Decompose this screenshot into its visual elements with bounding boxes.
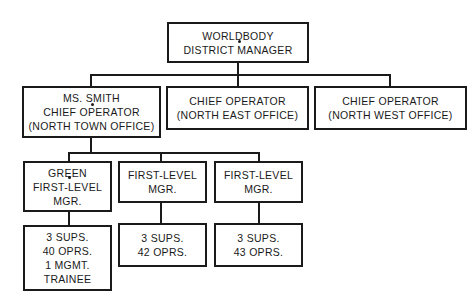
box-line: 42 OPRS.: [138, 245, 188, 259]
box-line: FIRST-LEVEL: [128, 168, 197, 182]
connector-staff-middle: [160, 202, 162, 223]
box-line: CHIEF OPERATOR: [189, 94, 286, 108]
first-level-mgr-green-box: GREEN FIRST-LEVEL MGR.: [23, 161, 112, 212]
box-line: 3 SUPS.: [46, 230, 88, 244]
box-line: 40 OPRS.: [43, 244, 93, 258]
box-line: FIRST-LEVEL: [33, 180, 102, 194]
bullet-dot: [91, 103, 94, 106]
box-line: (NORTH TOWN OFFICE): [29, 119, 155, 133]
connector-staff-right: [258, 202, 260, 223]
box-line: CHIEF OPERATOR: [342, 94, 439, 108]
connector-staff-left: [68, 211, 70, 225]
connector-chief-bar: [90, 74, 391, 76]
box-line: 3 SUPS.: [237, 231, 279, 245]
first-level-mgr-middle-box: FIRST-LEVEL MGR.: [118, 161, 207, 203]
bullet-dot: [68, 176, 71, 179]
bullet-dot: [238, 40, 241, 43]
chief-operator-north-west-box: CHIEF OPERATOR (NORTH WEST OFFICE): [314, 86, 467, 130]
box-line: TRAINEE: [44, 272, 92, 286]
box-line: DISTRICT MANAGER: [183, 43, 292, 57]
box-line: 3 SUPS.: [141, 231, 183, 245]
box-line: CHIEF OPERATOR: [43, 105, 140, 119]
box-line: MGR.: [244, 182, 273, 196]
box-line: (NORTH EAST OFFICE): [177, 108, 298, 122]
first-level-mgr-right-box: FIRST-LEVEL MGR.: [214, 161, 303, 203]
box-line: (NORTH WEST OFFICE): [328, 108, 452, 122]
staff-green-box: 3 SUPS. 40 OPRS. 1 MGMT. TRAINEE: [23, 225, 112, 291]
box-line: 43 OPRS.: [234, 245, 284, 259]
staff-right-box: 3 SUPS. 43 OPRS.: [214, 223, 303, 267]
box-line: 1 MGMT.: [45, 258, 90, 272]
chief-operator-north-town-box: MS. SMITH CHIEF OPERATOR (NORTH TOWN OFF…: [22, 86, 161, 138]
box-line: MGR.: [53, 194, 82, 208]
box-line: MGR.: [148, 182, 177, 196]
connector-mgr-bar: [68, 152, 260, 154]
staff-middle-box: 3 SUPS. 42 OPRS.: [118, 223, 207, 267]
box-line: FIRST-LEVEL: [224, 168, 293, 182]
chief-operator-north-east-box: CHIEF OPERATOR (NORTH EAST OFFICE): [166, 86, 309, 130]
